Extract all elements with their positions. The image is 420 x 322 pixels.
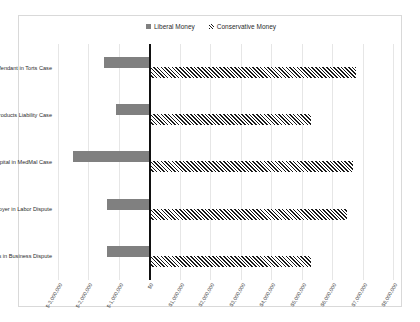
bar-conservative-money [149, 67, 356, 78]
bar-conservative-money [149, 256, 310, 267]
bar-liberal-money [107, 199, 150, 210]
category-label: Doctor/Hospital in MedMal Case [0, 159, 52, 165]
chart-row: Defendant in Torts Case [58, 44, 393, 91]
category-label: Defendant in Torts Case [0, 65, 52, 71]
legend-label-conservative-money: Conservative Money [217, 23, 276, 30]
gridline [393, 44, 394, 280]
chart-row: Business in Products Liability Case [58, 91, 393, 138]
x-tick-label: $7,000,000 [350, 282, 368, 307]
x-tick-label: $4,000,000 [258, 282, 276, 307]
chart-row: Business in Business Dispute [58, 233, 393, 280]
x-axis-tick-labels: $-3,000,000$-2,000,000$-1,000,000$0$1,00… [58, 282, 393, 322]
legend-item-conservative-money: Conservative Money [209, 23, 276, 30]
chart-row: Employer in Labor Dispute [58, 186, 393, 233]
bar-liberal-money [104, 57, 150, 68]
x-tick-label: $6,000,000 [319, 282, 337, 307]
chart-row: Doctor/Hospital in MedMal Case [58, 138, 393, 185]
bar-conservative-money [149, 161, 353, 172]
zero-axis-line [149, 44, 151, 280]
bar-conservative-money [149, 114, 310, 125]
category-label: Business in Products Liability Case [0, 112, 52, 118]
bar-liberal-money [73, 151, 149, 162]
legend-item-liberal-money: Liberal Money [146, 23, 195, 30]
bar-liberal-money [107, 246, 150, 257]
x-tick-label: $5,000,000 [289, 282, 307, 307]
plot-area: Defendant in Torts CaseBusiness in Produ… [58, 44, 393, 280]
chart-frame: Liberal Money Conservative Money Defenda… [18, 15, 402, 307]
x-tick-label: $-3,000,000 [44, 282, 63, 309]
category-label: Employer in Labor Dispute [0, 206, 52, 212]
category-label: Business in Business Dispute [0, 253, 52, 259]
x-tick-label: $-1,000,000 [105, 282, 124, 309]
x-tick-label: $0 [146, 282, 154, 290]
x-tick-label: $-2,000,000 [75, 282, 94, 309]
legend-label-liberal-money: Liberal Money [154, 23, 195, 30]
x-tick-label: $1,000,000 [167, 282, 185, 307]
chart-legend: Liberal Money Conservative Money [19, 23, 403, 30]
x-tick-label: $8,000,000 [380, 282, 398, 307]
legend-swatch-solid-icon [146, 24, 151, 29]
x-tick-label: $3,000,000 [228, 282, 246, 307]
bar-conservative-money [149, 209, 347, 220]
caption-strip [0, 0, 420, 10]
x-tick-label: $2,000,000 [197, 282, 215, 307]
legend-swatch-hatched-icon [209, 24, 214, 29]
bar-liberal-money [116, 104, 150, 115]
